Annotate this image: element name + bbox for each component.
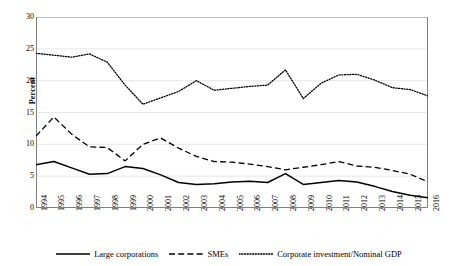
legend-item-0[interactable]: Large corporations	[56, 249, 158, 259]
y-axis-tick-15: 15	[16, 108, 34, 117]
legend-item-2[interactable]: Corporate investment/Nominal GDP	[239, 249, 402, 259]
chart-legend: Large corporationsSMEsCorporate investme…	[0, 246, 458, 262]
y-axis-tick-20: 20	[16, 76, 34, 85]
chart-canvas	[36, 17, 428, 208]
legend-label-0: Large corporations	[94, 249, 158, 259]
legend-label-2: Corporate investment/Nominal GDP	[277, 249, 402, 259]
legend-swatch-solid-icon	[56, 250, 90, 258]
y-axis-tick-10: 10	[16, 139, 34, 148]
y-axis-tick-5: 5	[16, 171, 34, 180]
legend-swatch-dashed-icon	[169, 250, 203, 258]
chart-figure: Percent 051015202530 1994199519961997199…	[0, 0, 458, 266]
y-axis-tick-25: 25	[16, 44, 34, 53]
plot-area	[36, 17, 428, 208]
y-axis-tick-30: 30	[16, 12, 34, 21]
series-line-2	[36, 53, 428, 104]
x-axis-tick-2016: 2016	[432, 195, 441, 211]
legend-swatch-dotted-icon	[239, 250, 273, 258]
y-axis-tick-0: 0	[16, 203, 34, 212]
legend-label-1: SMEs	[207, 249, 228, 259]
legend-item-1[interactable]: SMEs	[169, 249, 228, 259]
series-line-1	[36, 117, 428, 182]
y-axis-tick-labels: 051015202530	[12, 0, 34, 266]
